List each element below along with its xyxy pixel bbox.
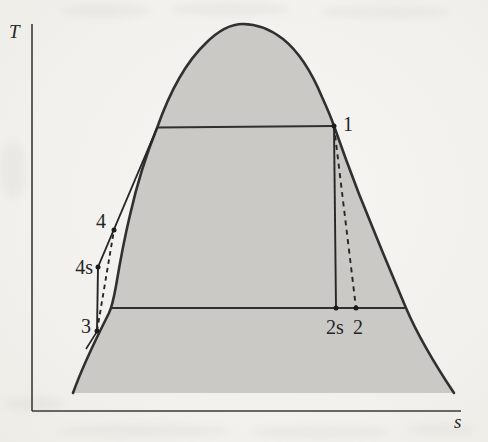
x-axis-label: s <box>454 411 461 432</box>
point-2-dot <box>354 306 359 311</box>
point-3-label: 3 <box>81 315 91 337</box>
point-4-dot <box>112 228 117 233</box>
point-3-dot <box>95 329 100 334</box>
point-1-dot <box>332 124 337 129</box>
point-1-label: 1 <box>343 113 353 135</box>
point-4s-dot <box>96 265 101 270</box>
point-2-label: 2 <box>353 316 363 338</box>
vapor-dome-fill <box>73 24 454 393</box>
point-4s-label: 4s <box>75 256 93 278</box>
point-4-label: 4 <box>96 210 106 232</box>
point-2s-label: 2s <box>326 316 344 338</box>
ts-diagram: 1 2s 2 3 4 4s T s <box>0 0 488 442</box>
point-2s-dot <box>334 306 339 311</box>
y-axis-label: T <box>9 21 21 42</box>
scanned-textbook-figure: 1 2s 2 3 4 4s T s <box>0 0 488 442</box>
